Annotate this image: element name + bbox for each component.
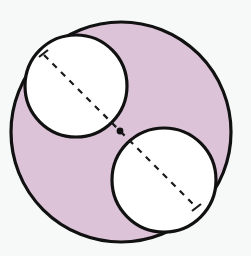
figure-container: Two congruent circles inscribed in a lar… <box>0 0 251 256</box>
geometry-diagram <box>0 0 251 256</box>
inner-circle-lower-right <box>112 128 216 232</box>
tangency-point-dot <box>117 128 124 135</box>
inner-circle-upper-left <box>25 35 127 137</box>
